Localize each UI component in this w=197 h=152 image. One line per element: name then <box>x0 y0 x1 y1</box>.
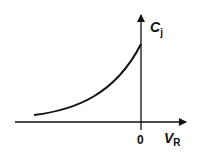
capacitance-curve <box>34 44 141 115</box>
x-axis-label: VR <box>164 130 181 148</box>
x-axis-subscript: R <box>173 137 181 148</box>
diagram-canvas: Cj 0 VR <box>0 0 197 152</box>
y-axis-label: Cj <box>150 19 163 38</box>
origin-label: 0 <box>137 133 144 147</box>
y-axis-subscript: j <box>159 27 163 38</box>
